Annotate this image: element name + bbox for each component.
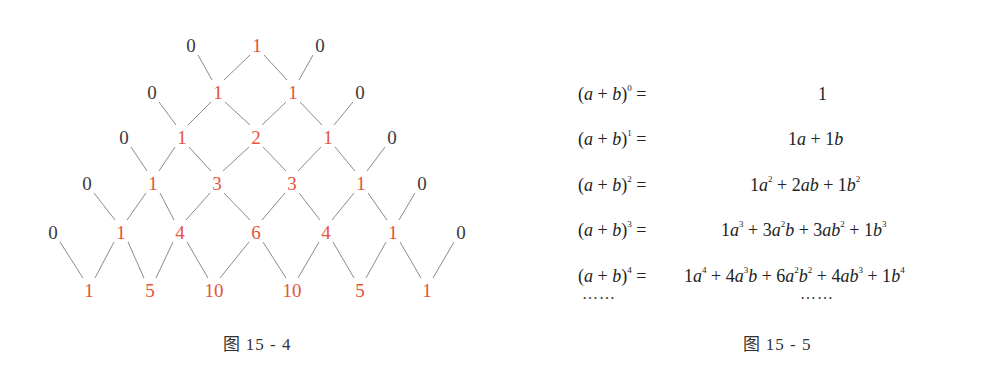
expansion-rhs: 1a4 + 4a3b + 6a2b2 + 4ab3 + 1b4	[684, 266, 905, 287]
expansion-rhs: 1a + 1b	[788, 129, 843, 150]
expansion-rhs: 1	[818, 84, 827, 105]
expansion-lhs: (a + b)4 =	[578, 266, 646, 287]
pascal-coefficient: 1	[356, 174, 366, 193]
zero-padding-value: 0	[315, 36, 325, 55]
pascal-coefficient: 2	[251, 128, 261, 147]
expansion-lhs: (a + b)2 =	[578, 175, 646, 196]
pascal-coefficient: 5	[355, 281, 365, 300]
pascal-coefficient: 4	[321, 223, 331, 242]
expansion-row: (a + b)2 =1a2 + 2ab + 1b2	[578, 175, 998, 201]
pascal-coefficient: 1	[388, 223, 398, 242]
zero-padding-value: 0	[387, 128, 397, 147]
figure-caption-15-4: 图 15 - 4	[223, 330, 292, 355]
pascal-coefficient: 6	[251, 223, 261, 242]
pascal-coefficient: 3	[287, 174, 297, 193]
expansion-row: (a + b)0 =1	[578, 84, 998, 110]
zero-padding-value: 0	[48, 223, 58, 242]
zero-padding-value: 0	[82, 174, 92, 193]
pascal-coefficient: 1	[177, 128, 187, 147]
pascal-coefficient: 1	[422, 281, 432, 300]
expansion-rhs: 1a3 + 3a2b + 3ab2 + 1b3	[721, 220, 886, 241]
pascal-coefficient: 1	[84, 281, 94, 300]
expansion-lhs: (a + b)1 =	[578, 129, 646, 150]
zero-padding-value: 0	[355, 83, 365, 102]
expansion-row: (a + b)1 =1a + 1b	[578, 129, 998, 155]
pascal-coefficient: 10	[205, 281, 224, 300]
zero-padding-value: 0	[186, 36, 196, 55]
ellipsis-left: ……	[582, 285, 616, 303]
pascal-triangle-figure: 010011001210013310014641015101051 图 15 -…	[0, 0, 500, 375]
pascal-coefficient: 1	[323, 128, 333, 147]
pascal-coefficient: 1	[213, 83, 223, 102]
expansion-row: (a + b)4 =1a4 + 4a3b + 6a2b2 + 4ab3 + 1b…	[578, 266, 998, 292]
pascal-coefficient: 10	[283, 281, 302, 300]
ellipsis-right: ……	[800, 285, 834, 303]
zero-padding-value: 0	[119, 128, 129, 147]
expansion-rhs: 1a2 + 2ab + 1b2	[750, 175, 860, 196]
zero-padding-value: 0	[456, 223, 466, 242]
expansion-lhs: (a + b)3 =	[578, 220, 646, 241]
pascal-coefficient: 1	[116, 223, 126, 242]
expansion-lhs: (a + b)0 =	[578, 84, 646, 105]
pascal-coefficient: 1	[148, 174, 158, 193]
expansion-row: (a + b)3 =1a3 + 3a2b + 3ab2 + 1b3	[578, 220, 998, 246]
pascal-coefficient: 1	[252, 36, 262, 55]
pascal-coefficient: 3	[212, 174, 222, 193]
zero-padding-value: 0	[417, 174, 427, 193]
figure-caption-15-5: 图 15 - 5	[743, 330, 812, 355]
zero-padding-value: 0	[147, 83, 157, 102]
pascal-coefficient: 4	[175, 223, 185, 242]
pascal-coefficient: 5	[145, 281, 155, 300]
pascal-coefficient: 1	[288, 83, 298, 102]
